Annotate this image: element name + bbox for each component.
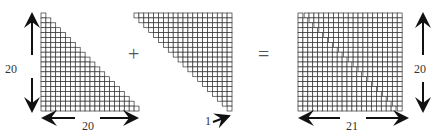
right-rectangle-grid bbox=[298, 13, 402, 111]
middle-triangle-grid bbox=[134, 13, 232, 111]
left-triangle-grid bbox=[41, 13, 139, 111]
left-height-label: 20 bbox=[5, 62, 17, 77]
plus-operator: + bbox=[128, 43, 139, 66]
left-width-label: 20 bbox=[82, 119, 94, 134]
staircase-diagram bbox=[0, 0, 446, 138]
right-width-label: 21 bbox=[346, 119, 358, 134]
offset-arrow-icon bbox=[213, 116, 229, 122]
right-height-label: 20 bbox=[414, 62, 426, 77]
equals-operator: = bbox=[258, 43, 269, 66]
offset-label: 1 bbox=[205, 114, 211, 129]
